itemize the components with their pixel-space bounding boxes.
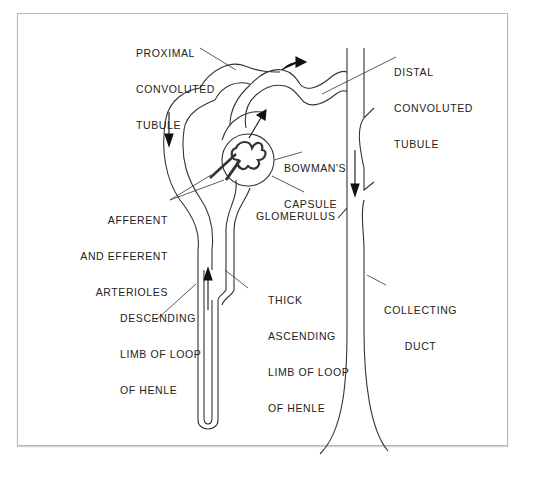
label-descending-limb: DESCENDING LIMB OF LOOP OF HENLE (120, 288, 201, 408)
label-line: AFFERENT (48, 214, 168, 226)
label-collecting-duct: COLLECTING DUCT (384, 280, 457, 364)
label-line: PROXIMAL (136, 47, 215, 59)
label-glomerulus: GLOMERULUS (256, 186, 336, 234)
label-line: COLLECTING (384, 304, 457, 316)
label-line: AND EFFERENT (48, 250, 168, 262)
label-line: CONVOLUTED (136, 83, 215, 95)
label-line: CONVOLUTED (394, 102, 473, 114)
loop-of-henle (198, 180, 250, 429)
label-line: DISTAL (394, 66, 473, 78)
label-line: ASCENDING (268, 330, 349, 342)
label-line: BOWMAN'S (284, 162, 346, 174)
label-line: OF HENLE (268, 402, 349, 414)
label-line: LIMB OF LOOP (268, 366, 349, 378)
label-distal-convoluted-tubule: DISTAL CONVOLUTED TUBULE (394, 42, 473, 162)
label-line: DUCT (384, 340, 457, 352)
label-line: TUBULE (394, 138, 473, 150)
label-proximal-convoluted-tubule: PROXIMAL CONVOLUTED TUBULE (136, 23, 215, 143)
distal-tubule (230, 70, 347, 128)
label-line: GLOMERULUS (256, 210, 336, 222)
label-line: LIMB OF LOOP (120, 348, 201, 360)
label-thick-ascending-limb: THICK ASCENDING LIMB OF LOOP OF HENLE (268, 270, 349, 426)
label-line: THICK (268, 294, 349, 306)
label-line: OF HENLE (120, 384, 201, 396)
label-line: TUBULE (136, 119, 215, 131)
glomerulus-shape (210, 142, 265, 180)
label-line: DESCENDING (120, 312, 201, 324)
